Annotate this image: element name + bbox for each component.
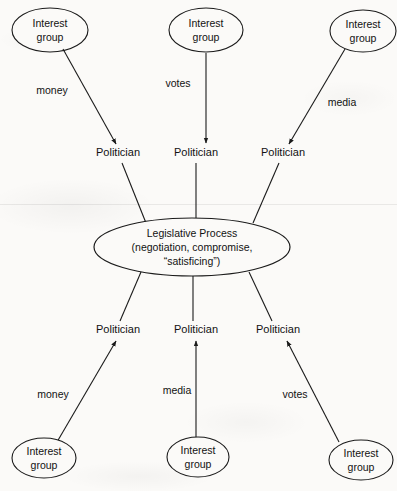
politician-top-middle[interactable]: Politician: [174, 146, 218, 158]
interest-group-top-middle-line1: Interest: [188, 17, 223, 29]
politician-top-left[interactable]: Politician: [96, 146, 140, 158]
diagram-page: Interest group Interest group Interest g…: [0, 0, 397, 491]
interest-group-bottom-left-line1: Interest: [26, 445, 61, 457]
interest-group-top-left-line1: Interest: [32, 17, 67, 29]
edge-label-top-right: media: [328, 96, 357, 108]
edge-label-top-left: money: [36, 84, 68, 96]
interest-group-top-right-line2: group: [350, 32, 377, 44]
interest-group-top-right-line1: Interest: [345, 18, 380, 30]
interest-group-ellipse-bottom-left[interactable]: [12, 438, 76, 478]
politician-bottom-middle[interactable]: Politician: [174, 323, 218, 335]
interest-group-ellipse-bottom-right[interactable]: [329, 440, 393, 480]
interest-group-ellipse-top-middle[interactable]: [169, 8, 243, 52]
spoke-top-right: [253, 163, 279, 223]
interest-group-ellipse-top-right[interactable]: [330, 10, 396, 52]
interest-group-bottom-middle-line2: group: [185, 458, 212, 470]
spoke-bottom-left: [120, 272, 141, 321]
interest-group-ellipse-top-left[interactable]: [12, 8, 88, 52]
interest-group-bottom-left-line2: group: [31, 459, 58, 471]
politician-bottom-left[interactable]: Politician: [96, 323, 140, 335]
edge-label-bottom-middle: media: [163, 384, 192, 396]
interest-group-bottom-right-line2: group: [348, 461, 375, 473]
diagram-canvas: Interest group Interest group Interest g…: [0, 0, 397, 491]
spoke-top-left: [122, 163, 146, 223]
edge-label-bottom-right: votes: [282, 388, 307, 400]
politician-bottom-right[interactable]: Politician: [256, 323, 300, 335]
legislative-process-line3: “satisficing”): [164, 255, 221, 267]
interest-group-top-middle-line2: group: [193, 31, 220, 43]
edge-label-bottom-left: money: [37, 388, 69, 400]
politician-top-right[interactable]: Politician: [261, 146, 305, 158]
interest-group-ellipse-bottom-middle[interactable]: [167, 437, 229, 477]
legislative-process-line1: Legislative Process: [147, 227, 237, 239]
legislative-process-line2: (negotiation, compromise,: [132, 241, 253, 253]
interest-group-bottom-middle-line1: Interest: [180, 444, 215, 456]
edge-label-top-middle: votes: [165, 77, 190, 89]
arrow-top-left-money: [63, 49, 116, 144]
spoke-bottom-right: [249, 272, 272, 321]
interest-group-top-left-line2: group: [37, 31, 64, 43]
interest-group-bottom-right-line1: Interest: [343, 447, 378, 459]
